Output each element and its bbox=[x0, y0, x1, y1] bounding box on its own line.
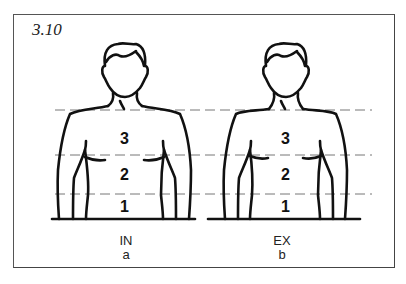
zone-1-b: 1 bbox=[281, 198, 290, 215]
panel-a-state: IN bbox=[106, 234, 146, 248]
left-torso-side bbox=[250, 150, 252, 219]
left-arm-outer bbox=[58, 106, 108, 219]
right-arm-outer bbox=[142, 106, 191, 219]
zone-3-b: 3 bbox=[281, 130, 290, 147]
zone-3-a: 3 bbox=[120, 130, 129, 147]
right-rib-line bbox=[303, 156, 321, 159]
hair-side bbox=[297, 52, 305, 66]
head-outline bbox=[102, 43, 148, 97]
panel-b-label: EX b bbox=[262, 234, 302, 262]
right-torso-side bbox=[161, 150, 164, 219]
hair-line bbox=[106, 51, 136, 62]
dashed-guides bbox=[55, 110, 372, 194]
left-arm-outer bbox=[224, 109, 269, 219]
zone-2-b: 2 bbox=[281, 166, 290, 183]
hair-line bbox=[267, 51, 297, 62]
head-outline bbox=[263, 43, 309, 97]
neck-left bbox=[269, 93, 274, 109]
panel-b-letter: b bbox=[262, 248, 302, 262]
neck-left bbox=[108, 93, 113, 106]
zone-2-a: 2 bbox=[120, 166, 129, 183]
zone-1-a: 1 bbox=[120, 198, 129, 215]
right-torso-side bbox=[318, 150, 321, 219]
neck-tendon bbox=[120, 101, 124, 109]
panel-a-letter: a bbox=[106, 248, 146, 262]
neck-tendon bbox=[281, 101, 285, 109]
right-rib-line bbox=[144, 157, 164, 160]
diagram-canvas: 3 2 1 3 2 1 bbox=[0, 0, 406, 284]
panel-a-label: IN a bbox=[106, 234, 146, 262]
left-torso-side bbox=[85, 150, 88, 219]
panel-b-state: EX bbox=[262, 234, 302, 248]
hair-side bbox=[136, 52, 144, 66]
left-rib-line bbox=[85, 157, 105, 160]
left-rib-line bbox=[250, 156, 268, 159]
